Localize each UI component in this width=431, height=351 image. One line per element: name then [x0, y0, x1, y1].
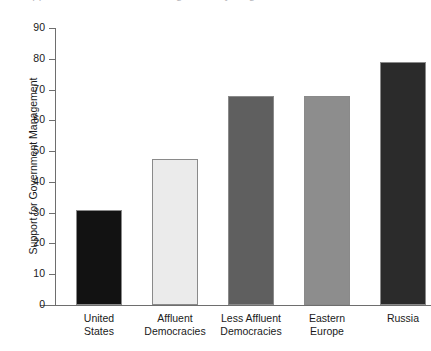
- bar-chart-figure: Support for Government Management by Reg…: [0, 0, 431, 351]
- bar: [76, 210, 122, 305]
- chart-title: Support for Government Management by Reg…: [18, 0, 418, 1]
- y-axis-tick: [49, 305, 55, 306]
- bars-layer: [0, 28, 431, 305]
- bar: [304, 96, 350, 305]
- x-axis-category-label-line: Europe: [277, 325, 377, 338]
- x-axis-category-label: Russia: [353, 312, 431, 325]
- bar: [380, 62, 426, 305]
- bar: [152, 159, 198, 305]
- x-axis-category-label-line: Russia: [353, 312, 431, 325]
- bar: [228, 96, 274, 305]
- x-axis-line: [40, 305, 431, 306]
